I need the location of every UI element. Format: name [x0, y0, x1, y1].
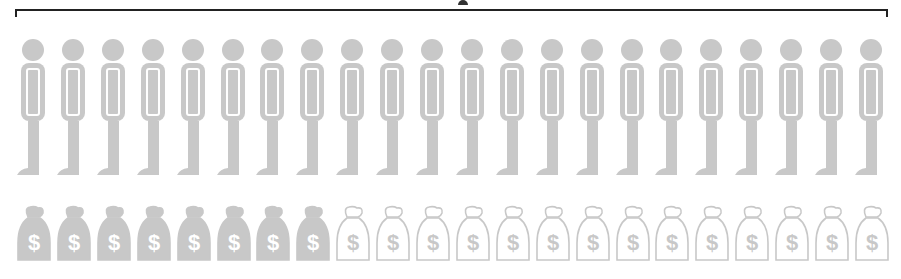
person-icon	[375, 38, 405, 176]
svg-text:$: $	[68, 230, 80, 255]
money-bag-outline-icon: $	[535, 205, 571, 263]
money-bag-filled-icon: $	[255, 205, 291, 263]
svg-text:$: $	[746, 230, 758, 255]
svg-text:$: $	[467, 230, 479, 255]
person-icon	[216, 38, 246, 176]
person-icon	[535, 38, 565, 176]
money-bag-filled-icon: $	[295, 205, 331, 263]
svg-text:$: $	[267, 230, 279, 255]
person-icon	[615, 38, 645, 176]
svg-text:$: $	[307, 230, 319, 255]
top-bracket	[15, 9, 888, 17]
svg-text:$: $	[826, 230, 838, 255]
svg-text:$: $	[387, 230, 399, 255]
person-icon	[176, 38, 206, 176]
money-bag-outline-icon: $	[335, 205, 371, 263]
person-icon	[814, 38, 844, 176]
money-bag-outline-icon: $	[415, 205, 451, 263]
money-bag-outline-icon: $	[455, 205, 491, 263]
money-bag-outline-icon: $	[615, 205, 651, 263]
people-row	[0, 38, 901, 178]
person-icon	[495, 38, 525, 176]
person-icon	[56, 38, 86, 176]
svg-text:$: $	[866, 230, 878, 255]
money-bag-outline-icon: $	[694, 205, 730, 263]
svg-text:$: $	[586, 230, 598, 255]
person-icon	[654, 38, 684, 176]
money-bag-outline-icon: $	[654, 205, 690, 263]
money-bag-outline-icon: $	[495, 205, 531, 263]
svg-text:$: $	[28, 230, 40, 255]
svg-text:$: $	[547, 230, 559, 255]
money-bag-outline-icon: $	[375, 205, 411, 263]
person-icon	[295, 38, 325, 176]
money-bag-filled-icon: $	[96, 205, 132, 263]
money-bag-outline-icon: $	[814, 205, 850, 263]
money-bag-outline-icon: $	[774, 205, 810, 263]
person-icon	[854, 38, 884, 176]
person-icon	[255, 38, 285, 176]
money-bag-filled-icon: $	[176, 205, 212, 263]
svg-text:$: $	[786, 230, 798, 255]
bracket-label-fragment	[458, 0, 468, 5]
person-icon	[694, 38, 724, 176]
svg-text:$: $	[666, 230, 678, 255]
person-icon	[734, 38, 764, 176]
person-icon	[774, 38, 804, 176]
person-icon	[136, 38, 166, 176]
person-icon	[96, 38, 126, 176]
money-bag-filled-icon: $	[216, 205, 252, 263]
money-bag-filled-icon: $	[136, 205, 172, 263]
person-icon	[16, 38, 46, 176]
svg-text:$: $	[108, 230, 120, 255]
svg-text:$: $	[706, 230, 718, 255]
person-icon	[335, 38, 365, 176]
money-bag-filled-icon: $	[16, 205, 52, 263]
svg-text:$: $	[507, 230, 519, 255]
person-icon	[415, 38, 445, 176]
svg-text:$: $	[187, 230, 199, 255]
money-bag-row: $ $ $ $ $ $ $ $ $ $ $	[0, 205, 901, 267]
money-bag-outline-icon: $	[575, 205, 611, 263]
person-icon	[455, 38, 485, 176]
svg-text:$: $	[227, 230, 239, 255]
svg-text:$: $	[347, 230, 359, 255]
svg-text:$: $	[148, 230, 160, 255]
money-bag-outline-icon: $	[734, 205, 770, 263]
svg-text:$: $	[626, 230, 638, 255]
person-icon	[575, 38, 605, 176]
money-bag-outline-icon: $	[854, 205, 890, 263]
money-bag-filled-icon: $	[56, 205, 92, 263]
svg-text:$: $	[427, 230, 439, 255]
